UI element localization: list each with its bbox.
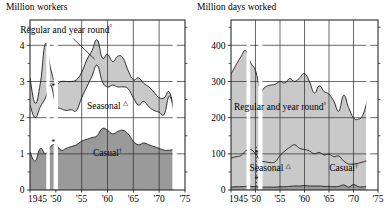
y-tick-label: 3 xyxy=(20,77,25,87)
series-annotation: Seasonal △ xyxy=(87,99,128,110)
x-tick-label: '55 xyxy=(274,194,285,204)
x-tick-label: '75 xyxy=(372,194,383,204)
y-tick-label: 300 xyxy=(211,77,226,87)
y-tick-label: 1 xyxy=(20,149,25,159)
leader-line xyxy=(73,39,94,59)
right-chart-svg: 01002003004001945'50'55'60'65'70'75Regul… xyxy=(193,0,386,215)
x-tick-label: '65 xyxy=(128,194,139,204)
x-tick-label: '70 xyxy=(154,194,165,204)
x-tick-label: 1945 xyxy=(229,194,248,204)
series-annotation: Regular and year round° xyxy=(20,23,112,34)
y-tick-label: 4 xyxy=(20,41,25,51)
series-annotation: Casual† xyxy=(329,162,359,173)
figure-root: Million workers 012341945'50'55'60'65'70… xyxy=(0,0,386,215)
y-tick-label: 100 xyxy=(211,149,226,159)
series-annotation: Casual† xyxy=(93,146,123,157)
x-tick-label: '60 xyxy=(102,194,113,204)
panel-million-workers: Million workers 012341945'50'55'60'65'70… xyxy=(0,0,193,215)
series-annotation: Regular and year round° xyxy=(234,101,326,112)
x-tick-label: '75 xyxy=(179,194,190,204)
left-chart-svg: 012341945'50'55'60'65'70'75Regular and y… xyxy=(0,0,193,215)
data-break-marker: * xyxy=(51,82,55,91)
data-break-marker: * xyxy=(51,138,55,147)
series-annotation: Seasonal △ xyxy=(250,162,291,173)
y-tick-label: 0 xyxy=(20,185,25,195)
y-tick-label: 400 xyxy=(211,41,226,51)
y-tick-label: 2 xyxy=(20,113,25,123)
x-tick-label: '70 xyxy=(348,194,359,204)
x-tick-label: 1945 xyxy=(28,194,47,204)
x-tick-label: '55 xyxy=(76,194,87,204)
x-tick-label: '50 xyxy=(50,194,61,204)
x-tick-label: '60 xyxy=(299,194,310,204)
data-break-marker: * xyxy=(254,149,258,158)
y-tick-label: 200 xyxy=(211,113,226,123)
y-tick-label: 0 xyxy=(221,185,226,195)
x-tick-label: '50 xyxy=(250,194,261,204)
panel-million-days-worked: Million days worked 01002003004001945'50… xyxy=(193,0,386,215)
x-tick-label: '65 xyxy=(323,194,334,204)
